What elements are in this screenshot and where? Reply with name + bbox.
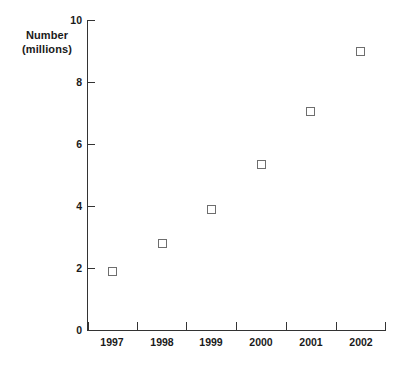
y-axis-tick-2 — [88, 268, 95, 269]
y-axis-tick-label-0-wrap: 0 — [58, 325, 82, 335]
y-axis-tick-label-8-wrap: 8 — [58, 77, 82, 87]
x-axis-label-2001: 2001 — [287, 336, 335, 348]
x-axis-line — [87, 330, 386, 331]
y-axis-tick-label-4: 4 — [58, 201, 82, 211]
scatter-chart: Number (millions) 10 8 6 4 2 0 1997 1998 — [0, 0, 403, 366]
x-axis-label-2000: 2000 — [237, 336, 285, 348]
x-axis-tick-5 — [336, 322, 337, 330]
x-axis-tick-3 — [236, 322, 237, 330]
y-axis-tick-label-2: 2 — [58, 263, 82, 273]
x-axis-label-1997: 1997 — [88, 336, 136, 348]
y-axis-tick-label-10-wrap: 10 — [58, 15, 82, 25]
x-axis-tick-0 — [88, 322, 89, 330]
y-axis-tick-label-6-wrap: 6 — [58, 139, 82, 149]
x-axis-tick-2 — [186, 322, 187, 330]
y-axis-tick-label-8: 8 — [58, 77, 82, 87]
x-axis-label-1998: 1998 — [138, 336, 186, 348]
x-axis-tick-6 — [385, 322, 386, 330]
x-axis-tick-4 — [286, 322, 287, 330]
x-axis-label-1997-wrap: 1997 — [88, 336, 136, 348]
y-axis-tick-label-6: 6 — [58, 139, 82, 149]
y-axis-title: Number (millions) — [8, 28, 86, 56]
x-axis-label-2002-wrap: 2002 — [337, 336, 385, 348]
y-axis-tick-label-0: 0 — [58, 325, 82, 335]
y-axis-tick-0 — [88, 330, 95, 331]
y-axis-line — [87, 20, 88, 331]
x-axis-label-1999: 1999 — [187, 336, 235, 348]
y-axis-tick-6 — [88, 144, 95, 145]
x-axis-label-1999-wrap: 1999 — [187, 336, 235, 348]
data-point-1997 — [108, 267, 117, 276]
y-axis-title-line-2: (millions) — [8, 42, 86, 56]
x-axis-label-2000-wrap: 2000 — [237, 336, 285, 348]
data-point-2002 — [356, 47, 365, 56]
y-axis-tick-4 — [88, 206, 95, 207]
data-point-2000 — [257, 160, 266, 169]
y-axis-tick-label-4-wrap: 4 — [58, 201, 82, 211]
x-axis-tick-1 — [137, 322, 138, 330]
y-axis-tick-8 — [88, 82, 95, 83]
data-point-1998 — [158, 239, 167, 248]
y-axis-tick-10 — [88, 20, 95, 21]
data-point-1999 — [207, 205, 216, 214]
data-point-2001 — [306, 107, 315, 116]
y-axis-title-line-1: Number — [8, 28, 86, 42]
y-axis-tick-label-10: 10 — [58, 15, 82, 25]
y-axis-tick-label-2-wrap: 2 — [58, 263, 82, 273]
x-axis-label-2001-wrap: 2001 — [287, 336, 335, 348]
x-axis-label-1998-wrap: 1998 — [138, 336, 186, 348]
x-axis-label-2002: 2002 — [337, 336, 385, 348]
